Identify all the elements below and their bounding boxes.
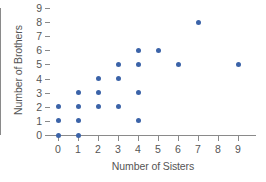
data-point	[56, 118, 61, 123]
y-tick-label-2: 2	[28, 102, 42, 112]
y-tick-9	[45, 8, 50, 9]
x-tick-label-2: 2	[91, 144, 105, 154]
x-tick-label-7: 7	[191, 144, 205, 154]
x-tick-label-9: 9	[231, 144, 245, 154]
x-axis-line	[50, 135, 256, 136]
x-tick-2	[98, 136, 99, 141]
data-point	[76, 104, 81, 109]
y-axis-title: Number of Brothers	[12, 5, 24, 135]
y-tick-label-0: 0	[28, 130, 42, 140]
data-point	[236, 62, 241, 67]
y-tick-label-5: 5	[28, 59, 42, 69]
y-tick-5	[45, 64, 50, 65]
data-point	[176, 62, 181, 67]
x-tick-label-6: 6	[171, 144, 185, 154]
x-tick-label-8: 8	[211, 144, 225, 154]
y-tick-3	[45, 93, 50, 94]
data-point	[76, 118, 81, 123]
data-point	[116, 62, 121, 67]
x-tick-label-5: 5	[151, 144, 165, 154]
x-tick-label-4: 4	[131, 144, 145, 154]
data-point	[136, 62, 141, 67]
y-tick-0	[45, 135, 50, 136]
x-tick-9	[238, 136, 239, 141]
y-tick-label-7: 7	[28, 31, 42, 41]
data-point	[116, 76, 121, 81]
data-point	[96, 76, 101, 81]
y-tick-label-1: 1	[28, 116, 42, 126]
data-point	[196, 20, 201, 25]
y-tick-label-3: 3	[28, 88, 42, 98]
x-tick-5	[158, 136, 159, 141]
x-tick-6	[178, 136, 179, 141]
y-tick-label-8: 8	[28, 17, 42, 27]
y-tick-label-4: 4	[28, 74, 42, 84]
x-axis-title: Number of Sisters	[50, 160, 256, 172]
y-tick-label-6: 6	[28, 45, 42, 55]
y-tick-7	[45, 36, 50, 37]
data-point	[136, 90, 141, 95]
data-point	[136, 48, 141, 53]
y-tick-2	[45, 107, 50, 108]
data-point	[136, 118, 141, 123]
y-tick-1	[45, 121, 50, 122]
data-point	[96, 104, 101, 109]
y-tick-4	[45, 79, 50, 80]
data-point	[56, 104, 61, 109]
x-tick-7	[198, 136, 199, 141]
data-point	[76, 133, 81, 138]
data-point	[76, 90, 81, 95]
y-axis-line	[0, 8, 1, 135]
y-tick-8	[45, 22, 50, 23]
x-tick-4	[138, 136, 139, 141]
x-tick-label-1: 1	[71, 144, 85, 154]
x-tick-3	[118, 136, 119, 141]
data-point	[56, 133, 61, 138]
y-tick-6	[45, 50, 50, 51]
x-tick-8	[218, 136, 219, 141]
scatter-plot: Number of Brothers Number of Sisters 012…	[0, 0, 266, 182]
data-point	[116, 104, 121, 109]
x-tick-label-0: 0	[51, 144, 65, 154]
x-tick-label-3: 3	[111, 144, 125, 154]
y-tick-label-9: 9	[28, 3, 42, 13]
data-point	[96, 90, 101, 95]
data-point	[156, 48, 161, 53]
